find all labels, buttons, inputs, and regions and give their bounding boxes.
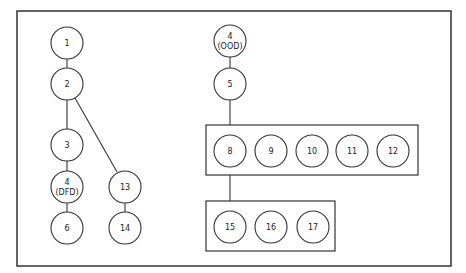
node-n4dfd: 4(DFD) (51, 171, 83, 203)
node-n17: 17 (297, 211, 329, 243)
node-n8: 8 (214, 135, 246, 167)
node-label: 1 (64, 39, 69, 48)
node-sublabel: (DFD) (55, 188, 78, 197)
node-label: 10 (307, 147, 317, 156)
node-label: 9 (268, 147, 273, 156)
node-n11: 11 (336, 135, 368, 167)
node-label: 14 (120, 224, 130, 233)
node-n14: 14 (109, 212, 141, 244)
node-n5: 5 (214, 68, 246, 100)
node-label: 6 (64, 224, 69, 233)
edge (75, 98, 117, 172)
node-n6: 6 (51, 212, 83, 244)
node-n15: 15 (214, 211, 246, 243)
node-label: 5 (227, 80, 232, 89)
node-n13: 13 (109, 171, 141, 203)
node-n2: 2 (51, 68, 83, 100)
node-label: 8 (227, 147, 232, 156)
node-label: 15 (225, 223, 235, 232)
node-n4ood: 4(OOD) (214, 25, 246, 57)
node-n9: 9 (255, 135, 287, 167)
node-sublabel: (OOD) (218, 42, 243, 51)
node-n3: 3 (51, 129, 83, 161)
node-label: 4 (64, 178, 69, 187)
node-label: 17 (308, 223, 318, 232)
node-label: 16 (266, 223, 276, 232)
node-label: 4 (227, 32, 232, 41)
node-n12: 12 (377, 135, 409, 167)
tree-diagram: 1234(DFD)613144(OOD)589101112151617 (0, 0, 466, 273)
node-label: 13 (120, 183, 130, 192)
node-label: 12 (388, 147, 398, 156)
node-n1: 1 (51, 27, 83, 59)
node-n16: 16 (255, 211, 287, 243)
node-label: 3 (64, 141, 69, 150)
node-n10: 10 (296, 135, 328, 167)
node-label: 2 (64, 80, 69, 89)
node-label: 11 (347, 147, 357, 156)
